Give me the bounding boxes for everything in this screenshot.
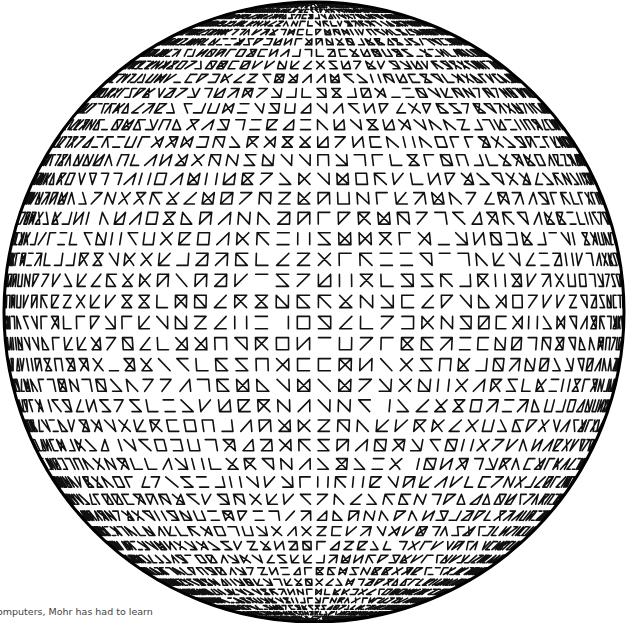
glyph-strokes bbox=[4, 2, 624, 622]
sphere-glyph-artwork bbox=[0, 0, 626, 623]
glyph-grid bbox=[4, 2, 624, 622]
caption-text: omputers, Mohr has had to learn bbox=[0, 606, 153, 617]
